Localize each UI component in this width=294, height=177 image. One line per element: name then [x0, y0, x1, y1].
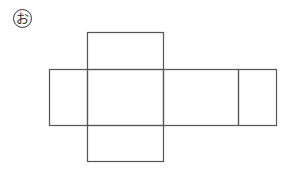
- top-face: [88, 33, 164, 70]
- right-end-face: [239, 70, 277, 126]
- bottom-face: [88, 126, 164, 162]
- prism-net-diagram: [0, 0, 294, 177]
- left-face: [50, 70, 88, 126]
- front-face: [88, 70, 164, 126]
- right-long-face: [164, 70, 239, 126]
